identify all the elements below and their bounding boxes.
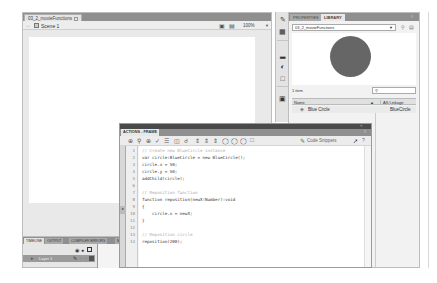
check-syntax-icon[interactable]: ✓	[153, 137, 161, 144]
column-name[interactable]: Name	[294, 100, 305, 105]
wand-icon[interactable]: ➚	[353, 137, 358, 144]
column-linkage[interactable]: AS Linkage	[380, 100, 403, 105]
line-number: 12	[130, 225, 135, 230]
search-icon: ⚲	[375, 88, 378, 93]
line-number-gutter: 1 2 3 4 5 6 7 8 9 10 11 12 13 14	[126, 146, 138, 267]
edit-symbols-icon[interactable]: ▣	[219, 22, 225, 29]
library-document-value: 03_2_movieFunctions	[295, 25, 334, 30]
code-line: var circle:BlueCircle = new BlueCircle()…	[142, 155, 245, 160]
line-number: 6	[132, 183, 135, 188]
library-search-input[interactable]: ⚲	[372, 87, 416, 94]
collapse-selection-icon[interactable]: ⇕	[202, 137, 210, 144]
scene-label[interactable]: Scene 1	[41, 23, 59, 29]
panel-icon-column: ✎ ▦ ▂ ◐ □ ▣	[275, 12, 288, 122]
code-line: // Create new BlueCircle instance	[142, 148, 225, 153]
line-number: 1	[132, 148, 135, 153]
panel-menu-icon[interactable]: ≡	[364, 129, 366, 134]
tab-actions-frame[interactable]: ACTIONS - FRAME	[121, 129, 159, 136]
column-divider	[375, 113, 376, 267]
remove-comment-icon[interactable]: ◯	[239, 137, 247, 144]
divider	[428, 12, 429, 268]
code-line: // Reposition function	[142, 190, 197, 195]
outline-icon[interactable]	[87, 247, 92, 252]
library-item-count: 1 item	[292, 88, 303, 93]
chevron-down-icon[interactable]: ▼	[265, 23, 269, 28]
close-icon[interactable]: ×	[360, 123, 362, 128]
show-toolbox-icon[interactable]: □	[248, 137, 256, 143]
tab-timeline[interactable]: TIMELINE	[24, 238, 44, 244]
new-library-icon[interactable]: ▤	[409, 24, 414, 30]
lock-icon[interactable]: ●	[81, 247, 84, 253]
add-item-icon[interactable]: ⊕	[126, 137, 134, 144]
layer-row[interactable]: ▸ Layer 1 ✎ · ·	[23, 255, 95, 262]
sort-arrow-icon[interactable]: ▲	[370, 100, 374, 105]
library-column-header: Name ▲ AS Linkage	[292, 98, 416, 105]
code-line: circle.x = newX;	[142, 211, 192, 216]
outline-color-icon[interactable]	[89, 256, 94, 261]
eye-icon[interactable]: ◉	[75, 247, 79, 253]
code-line: // Reposition circle	[142, 232, 192, 237]
movieclip-icon: ◈	[300, 106, 304, 112]
auto-format-icon[interactable]: ☰	[162, 137, 170, 144]
code-line: circle.x = 50;	[142, 162, 177, 167]
zoom-level[interactable]: 100%	[243, 23, 255, 28]
target-path-icon[interactable]: ⊕	[144, 137, 152, 144]
line-number: 2	[132, 155, 135, 160]
scene-icon	[34, 23, 39, 28]
find-icon[interactable]: ⚲	[135, 137, 143, 144]
actions-toolbar: ⊕ ⚲ ⊕ ✓ ☰ ◫ ☌ ⇕ ⇕ ⇕ ◯ ◯ ◯ □ ✎ Code Snipp…	[120, 136, 371, 146]
components-icon[interactable]: ▣	[278, 94, 287, 103]
tab-library[interactable]: LIBRARY	[321, 14, 345, 21]
library-preview	[292, 33, 416, 85]
color-icon[interactable]: ◐	[278, 62, 287, 71]
line-number: 8	[132, 197, 135, 202]
properties-icon[interactable]: ✎	[278, 15, 287, 24]
library-document-select[interactable]: 03_2_movieFunctions ▼	[292, 24, 396, 31]
code-snippets-button[interactable]: Code Snippets	[307, 138, 337, 143]
divider	[277, 86, 288, 87]
code-hint-icon[interactable]: ◫	[173, 137, 181, 144]
code-line: circle.y = 50;	[142, 169, 177, 174]
edit-scene-icon[interactable]: ▤	[229, 22, 235, 29]
code-line: addChild(circle);	[142, 176, 185, 181]
debug-options-icon[interactable]: ☌	[182, 137, 190, 144]
layer-icon: ▸	[31, 255, 34, 261]
transform-icon[interactable]: □	[278, 74, 287, 83]
code-line: {	[142, 204, 145, 209]
line-number: 13	[130, 232, 135, 237]
line-number: 7	[132, 190, 135, 195]
tab-output[interactable]: OUTPUT	[45, 238, 63, 244]
vertical-scrollbar[interactable]	[364, 146, 370, 267]
visibility-dot-icon[interactable]: ·	[80, 255, 82, 261]
line-number: 5	[132, 176, 135, 181]
code-snippets-icon[interactable]: ✎	[300, 137, 305, 144]
library-item[interactable]: ◈ Blue Circle BlueCircle	[292, 106, 416, 113]
line-number: 3	[132, 162, 135, 167]
library-icon[interactable]: ▦	[278, 27, 287, 36]
pencil-icon: ✎	[73, 255, 77, 261]
panel-menu-icon[interactable]: ≡	[411, 14, 413, 19]
edit-bar: ← Scene 1 ▣ ▤ 100% ▼	[23, 21, 271, 30]
divider	[277, 40, 288, 41]
document-tab-bar: 03_2_movieFunctions	[23, 13, 271, 21]
circle-preview	[330, 36, 371, 77]
block-comment-icon[interactable]: ◯	[221, 137, 229, 144]
library-tab-bar: PROPERTIES LIBRARY ≡	[289, 13, 419, 21]
line-number: 4	[132, 169, 135, 174]
code-editor[interactable]: // Create new BlueCircle instance var ci…	[139, 146, 370, 267]
lock-dot-icon[interactable]: ·	[85, 255, 87, 261]
document-tab[interactable]: 03_2_movieFunctions	[24, 14, 82, 21]
library-item-name: Blue Circle	[308, 107, 330, 112]
back-arrow-icon[interactable]: ←	[26, 22, 31, 28]
line-number: 10	[130, 211, 135, 216]
expand-all-icon[interactable]: ⇕	[211, 137, 219, 144]
line-number: 9	[132, 204, 135, 209]
line-number: 14	[130, 239, 135, 244]
layer-name[interactable]: Layer 1	[39, 256, 52, 261]
line-comment-icon[interactable]: ◯	[230, 137, 238, 144]
collapse-between-icon[interactable]: ⇕	[193, 137, 201, 144]
help-icon[interactable]: ?	[362, 137, 365, 143]
align-icon[interactable]: ▂	[278, 50, 287, 59]
tab-properties[interactable]: PROPERTIES	[290, 14, 322, 21]
pin-icon[interactable]: ⚲	[401, 24, 405, 30]
